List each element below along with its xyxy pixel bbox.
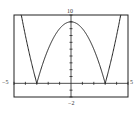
ymax-label: 10 bbox=[67, 8, 73, 14]
axes bbox=[14, 15, 128, 97]
xmin-label: −5 bbox=[2, 79, 8, 85]
graph-plot bbox=[0, 0, 135, 113]
xmax-label: 5 bbox=[130, 79, 133, 85]
ymin-label: −2 bbox=[68, 100, 74, 106]
